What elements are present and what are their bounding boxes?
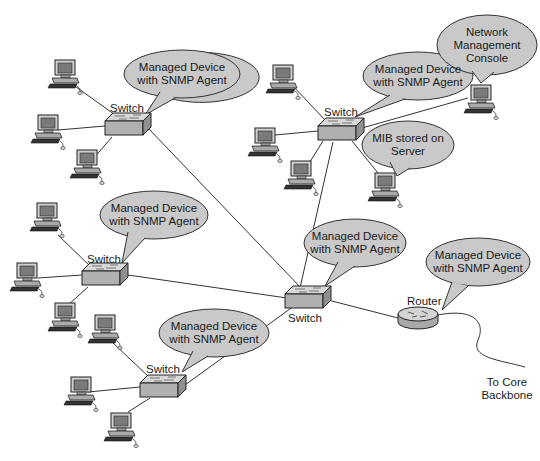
pc-icon[interactable] [88,315,122,350]
callout-line: MIB stored on [372,132,444,145]
callout-line: with SNMP Agent [373,76,462,89]
callout-line: Managed Device [109,202,198,215]
callout-line: Server [372,145,444,158]
backbone-line: Backbone [481,389,532,402]
pc-icon[interactable] [48,303,82,338]
backbone-label: To Core Backbone [481,376,532,402]
callout-line: with SNMP Agent [137,74,226,87]
mib-callout: MIB stored on Server [372,132,444,158]
pc-icon[interactable] [248,128,282,163]
pc-icon[interactable] [64,377,98,412]
nmc-callout: Network Management Console [453,26,520,65]
backbone-line: To Core [481,376,532,389]
switch-a-label: Switch [110,102,144,115]
callout-line: with SNMP Agent [169,333,258,346]
callout-line: Network [453,26,520,39]
switch-a-callout: Managed Device with SNMP Agent [137,61,226,87]
pc-icon[interactable] [31,115,65,150]
switch-c-icon[interactable] [82,263,128,285]
pc-icon[interactable] [10,263,44,298]
switch-a-icon[interactable] [105,113,151,135]
router-icon[interactable] [398,307,438,329]
switch-c-label: Switch [87,253,121,266]
switch-c-callout: Managed Device with SNMP Agent [109,202,198,228]
callout-line: Managed Device [169,320,258,333]
switch-b-icon[interactable] [318,118,364,140]
router-label: Router [407,295,442,308]
switch-core-callout: Managed Device with SNMP Agent [310,230,399,256]
mib-server-icon[interactable] [368,173,402,208]
switch-b-callout: Managed Device with SNMP Agent [373,63,462,89]
switch-d-icon[interactable] [140,375,186,397]
switch-core-icon[interactable] [285,286,331,308]
pc-icon[interactable] [30,203,64,238]
callout-line: with SNMP Agent [433,262,522,275]
switch-d-label: Switch [146,363,180,376]
pc-icon[interactable] [266,65,300,100]
switch-core-label: Switch [288,312,322,325]
callout-line: Managed Device [310,230,399,243]
pc-icon[interactable] [70,150,104,185]
nmc-pc-icon[interactable] [464,85,498,120]
switch-d-callout: Managed Device with SNMP Agent [169,320,258,346]
pc-icon[interactable] [48,60,82,95]
callout-line: Managed Device [373,63,462,76]
pc-icon[interactable] [284,161,318,196]
router-callout: Managed Device with SNMP Agent [433,249,522,275]
callout-line: Management [453,39,520,52]
callout-line: with SNMP Agent [109,215,198,228]
callout-line: Managed Device [433,249,522,262]
workstations [10,60,498,448]
pc-icon[interactable] [104,413,138,448]
switch-b-label: Switch [324,106,358,119]
callout-line: with SNMP Agent [310,243,399,256]
callout-line: Console [453,52,520,65]
callout-line: Managed Device [137,61,226,74]
